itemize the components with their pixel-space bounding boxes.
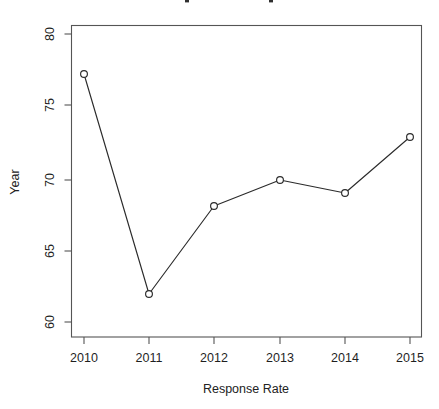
x-tick-label: 2012 (200, 351, 228, 365)
y-tick-label: 70 (43, 173, 57, 187)
data-point-marker (342, 190, 349, 197)
y-tick-label: 75 (43, 98, 57, 112)
y-tick-label: 65 (43, 244, 57, 258)
data-point-marker (211, 203, 218, 210)
y-tick-label: 60 (43, 315, 57, 329)
x-tick-label: 2011 (136, 351, 163, 365)
plot-frame (72, 26, 422, 338)
line-chart: 80 75 70 65 60 2010 2011 2012 2013 2014 … (0, 0, 439, 409)
y-axis-title: Year (8, 169, 22, 194)
y-tick-label: 80 (43, 27, 57, 41)
x-tick-label: 2014 (331, 351, 359, 365)
x-tick-label: 2010 (70, 351, 98, 365)
data-point-marker (146, 291, 153, 298)
data-point-marker (277, 177, 284, 184)
x-axis-title: Response Rate (203, 382, 289, 396)
series-line-year (84, 74, 410, 294)
y-axis-ticks (65, 34, 72, 322)
y-axis-tick-labels: 80 75 70 65 60 (43, 27, 57, 329)
data-point-marker (407, 134, 414, 141)
x-tick-label: 2013 (266, 351, 294, 365)
x-axis-tick-labels: 2010 2011 2012 2013 2014 2015 (70, 351, 424, 365)
clipped-title-remnants (185, 0, 273, 2)
series-markers-year (81, 71, 414, 298)
x-tick-label: 2015 (396, 351, 424, 365)
x-axis-ticks (84, 337, 410, 344)
chart-screenshot: 80 75 70 65 60 2010 2011 2012 2013 2014 … (0, 0, 439, 409)
data-point-marker (81, 71, 88, 78)
